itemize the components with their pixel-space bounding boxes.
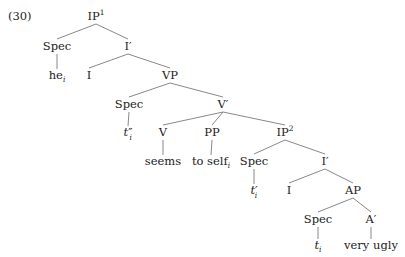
tree-edge-IP2-Spec3 (254, 140, 285, 154)
tree-node-i1: I (87, 68, 92, 82)
node-prime: ′ (326, 154, 329, 168)
node-label: V (158, 125, 168, 139)
tree-edge-PP-toself (211, 140, 212, 155)
tree-nodes: IP1SpecheiI′IVPSpect″iV′VseemsPPto selfi… (43, 8, 399, 254)
tree-node-ip1: IP1 (87, 8, 104, 23)
tree-node-spec1: Spec (43, 39, 72, 53)
node-label: very ugly (343, 238, 398, 252)
tree-node-spec4: Spec (304, 212, 333, 226)
tree-node-abar: A′ (365, 212, 377, 226)
node-label: Spec (115, 97, 144, 111)
tree-node-spec3: Spec (240, 154, 269, 168)
tree-node-spec2: Spec (115, 97, 144, 111)
node-subscript: i (228, 161, 231, 170)
node-superscript: 2 (289, 124, 294, 133)
tree-node-toself: to selfi (192, 154, 231, 170)
node-label: Spec (43, 39, 72, 53)
node-prime: ′ (374, 212, 377, 226)
node-label: IP (276, 125, 289, 139)
node-subscript: i (63, 75, 66, 84)
tree-edge-IP1-Spec1 (57, 24, 96, 39)
tree-edge-Ibar2-AP (325, 169, 353, 183)
node-label: PP (204, 125, 220, 139)
tree-node-pp: PP (204, 125, 220, 139)
tree-node-ip2: IP2 (276, 124, 293, 139)
example-number: (30) (8, 9, 32, 23)
node-label: Spec (304, 212, 333, 226)
node-label: he (49, 68, 63, 82)
tree-node-ap: AP (344, 183, 361, 197)
node-subscript: i (319, 245, 322, 254)
tree-node-t0: ti (314, 238, 322, 254)
tree-node-ibar1: I′ (124, 39, 132, 53)
node-label: I (287, 183, 292, 197)
node-label: IP (87, 9, 100, 23)
tree-node-i2: I (287, 183, 292, 197)
tree-edge-Ibar1-I1 (89, 54, 128, 68)
tree-edge-AP-Abar (353, 198, 371, 212)
node-prime: ′ (129, 39, 132, 53)
node-label: to self (192, 154, 229, 168)
tree-node-v: V (158, 125, 168, 139)
tree-node-vp: VP (161, 68, 178, 82)
node-label: I (87, 68, 92, 82)
tree-edge-IP2-Ibar2 (285, 140, 325, 154)
tree-node-t2: t″i (124, 125, 134, 142)
syntax-tree-diagram: (30) IP1SpecheiI′IVPSpect″iV′VseemsPPto … (0, 0, 405, 257)
tree-node-ibar2: I′ (321, 154, 329, 168)
tree-edge-VP-Vbar (170, 83, 223, 97)
node-label: Spec (240, 154, 269, 168)
tree-node-veryugly: very ugly (343, 238, 398, 252)
node-prime: ′ (226, 97, 229, 111)
tree-edge-Vbar-IP2 (223, 112, 285, 125)
tree-edge-Spec2-t2 (128, 112, 129, 126)
node-label: seems (145, 154, 181, 168)
tree-edge-VP-Spec2 (129, 83, 170, 97)
tree-edge-Ibar1-VP (128, 54, 170, 68)
node-label: VP (161, 68, 178, 82)
tree-node-vbar: V′ (217, 97, 229, 111)
node-superscript: 1 (100, 8, 105, 17)
tree-node-t1: t′i (250, 183, 258, 200)
tree-edge-AP-Spec4 (318, 198, 353, 212)
tree-edge-Ibar2-I2 (289, 169, 325, 183)
tree-node-seems: seems (145, 154, 181, 168)
tree-edge-IP1-Ibar1 (96, 24, 128, 39)
node-label: AP (344, 183, 361, 197)
tree-node-he: hei (49, 68, 66, 84)
